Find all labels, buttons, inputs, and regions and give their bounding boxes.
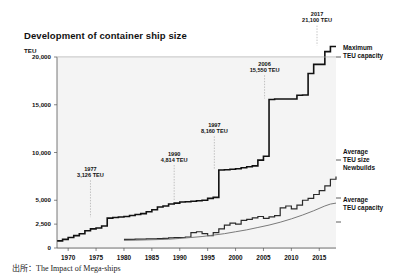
annotation-value: 15,550 TEU [250,67,280,73]
legend-average-line1: Average [343,196,383,204]
x-tick-label: 1980 [117,254,132,261]
legend-average-teu-size-newbuilds: Average TEU size Newbuilds [343,148,375,173]
annotation-value: 8,160 TEU [201,128,228,134]
annotation-value: 21,100 TEU [302,17,332,23]
y-axis-ticks: 02,5005,00010,00015,00020,000 [32,53,57,251]
legend-maximum-teu-capacity: Maximum TEU capacity [343,44,383,60]
y-tick-label: 5,000 [36,196,52,203]
y-tick-label: 0 [48,244,52,251]
chart-figure: Development of container ship size TEU 0… [0,0,407,280]
x-tick-label: 1985 [145,254,160,261]
x-tick-label: 2010 [284,254,299,261]
x-tick-label: 2005 [256,254,271,261]
annotation-value: 4,814 TEU [161,157,188,163]
plot-shading [57,57,336,248]
x-axis-ticks: 1970197519801985199019952000200520102015 [61,248,327,261]
legend-average-line2: TEU capacity [343,204,383,212]
legend-maximum-line2: TEU capacity [343,52,383,60]
x-tick-label: 2015 [312,254,327,261]
y-tick-label: 15,000 [32,101,51,108]
y-tick-label: 10,000 [32,149,51,156]
y-tick-label: 2,500 [36,220,52,227]
y-tick-label: 20,000 [32,53,51,60]
source-note: 出所：The Impact of Mega-ships [12,262,121,273]
x-tick-label: 1975 [89,254,104,261]
legend-newbuilds-line3: Newbuilds [343,164,375,172]
chart-plot: 02,5005,00010,00015,00020,000 1970197519… [0,0,407,280]
legend-average-teu-capacity: Average TEU capacity [343,196,383,212]
legend-newbuilds-line2: TEU size [343,156,375,164]
legend-maximum-line1: Maximum [343,44,383,52]
x-tick-label: 2000 [228,254,243,261]
x-tick-label: 1970 [61,254,76,261]
x-tick-label: 1995 [201,254,216,261]
legend-newbuilds-line1: Average [343,148,375,156]
annotation-value: 3,126 TEU [77,172,104,178]
x-tick-label: 1990 [173,254,188,261]
